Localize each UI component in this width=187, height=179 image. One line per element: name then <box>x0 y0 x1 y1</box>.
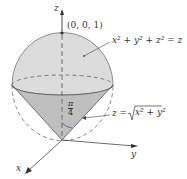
y-axis <box>62 140 134 146</box>
x-axis <box>28 140 62 171</box>
sphere-upper-cap <box>12 32 113 95</box>
cone-equation-lhs: z = <box>112 108 127 118</box>
x-axis-label: x <box>16 163 21 173</box>
z-axis-label: z <box>54 3 59 13</box>
angle-label: π 4 <box>68 100 73 117</box>
point-label: (0, 0, 1) <box>67 20 103 30</box>
z-axis-arrow <box>60 9 64 15</box>
sphere-equation: x² + y² + z² = z <box>112 35 182 45</box>
cone-equation-rhs: x² + y² <box>135 107 166 117</box>
y-axis-label: y <box>131 149 136 159</box>
point-0-0-1 <box>60 31 63 34</box>
diagram: z (0, 0, 1) x² + y² + z² = z π 4 z = x² … <box>0 0 187 179</box>
y-axis-arrow <box>131 144 138 148</box>
cone-leader <box>84 115 110 118</box>
